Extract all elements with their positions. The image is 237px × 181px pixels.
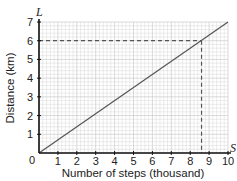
x-tick-label: 4 (112, 155, 118, 167)
y-tick-label: 7 (27, 16, 33, 28)
distance-steps-chart: 123456789101234567 L S 0 Number of steps… (0, 0, 237, 181)
y-tick-label: 3 (27, 91, 33, 103)
y-tick-label: 5 (27, 53, 33, 65)
y-tick-label: 2 (27, 110, 33, 122)
x-tick-label: 2 (74, 155, 80, 167)
x-tick-label: 6 (149, 155, 155, 167)
x-tick-label: 8 (187, 155, 193, 167)
x-tick-label: 5 (130, 155, 136, 167)
x-tick-label: 7 (168, 155, 174, 167)
x-tick-label: 10 (222, 155, 234, 167)
origin-label: 0 (29, 154, 35, 166)
x-tick-label: 3 (93, 155, 99, 167)
y-tick-label: 6 (27, 35, 33, 47)
y-axis-label: Distance (km) (4, 52, 16, 123)
y-tick-label: 1 (27, 128, 33, 140)
y-axis-symbol: L (35, 5, 43, 19)
x-tick-label: 1 (55, 155, 61, 167)
x-tick-label: 9 (206, 155, 212, 167)
x-axis-label: Number of steps (thousand) (62, 167, 205, 179)
y-tick-label: 4 (27, 72, 33, 84)
x-axis-symbol: S (230, 141, 236, 155)
